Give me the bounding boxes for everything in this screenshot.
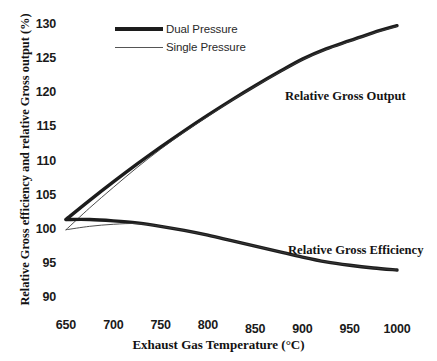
x-tick-label-750: 750: [138, 318, 184, 332]
legend-item-label: Single Pressure: [163, 41, 246, 53]
x-tick-label-900: 900: [279, 322, 325, 336]
x-tick-label-950: 950: [327, 322, 373, 336]
x-tick-label-1000: 1000: [374, 322, 420, 336]
x-tick-label-800: 800: [185, 318, 231, 332]
annotation-relative-gross-output: Relative Gross Output: [285, 89, 406, 104]
x-tick-label-650: 650: [43, 318, 89, 332]
chart-container: 9095100105110115120125130 65070075080085…: [0, 0, 437, 361]
x-axis-title: Exhaust Gas Temperature (°C): [0, 337, 437, 353]
legend-line-swatch-icon: [115, 22, 163, 36]
legend-item-label: Dual Pressure: [163, 23, 238, 35]
series-line-single-pressure-relative-gross-output: [66, 26, 397, 229]
legend-line-swatch-icon: [115, 40, 163, 54]
y-axis-title: Relative Gross efficiency and relative G…: [18, 0, 33, 320]
legend-item-single-pressure: Single Pressure: [115, 38, 265, 56]
annotation-relative-gross-efficiency: Relative Gross Efficiency: [288, 243, 423, 258]
legend-item-dual-pressure: Dual Pressure: [115, 20, 265, 38]
x-tick-label-700: 700: [90, 318, 136, 332]
x-tick-label-850: 850: [232, 322, 278, 336]
chart-legend: Dual PressureSingle Pressure: [115, 20, 265, 56]
